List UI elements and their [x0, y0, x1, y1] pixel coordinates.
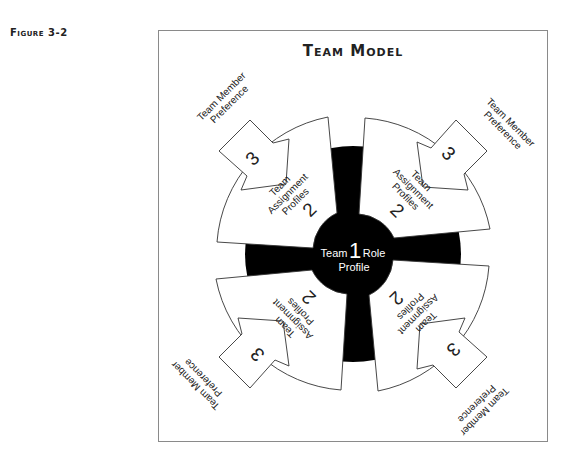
center-label-role: Role: [363, 247, 386, 259]
center-number: 1: [349, 238, 361, 263]
quadrant-bottom-right: 3 Team Member Preference Team Assignment…: [369, 260, 511, 439]
center-label-profile: Profile: [338, 261, 369, 273]
team-model-diagram: 3 Team Member Preference Team Assignment…: [0, 0, 582, 471]
quadrant-top-left: 3 Team Member Preference Team Assignment…: [195, 69, 337, 248]
quadrant-bottom-left: 3 Team Member Preference Team Assignment…: [168, 270, 347, 412]
quadrant-top-right: 3 Team Member Preference Team Assignment…: [359, 96, 538, 238]
center-label-team: Team: [321, 247, 348, 259]
